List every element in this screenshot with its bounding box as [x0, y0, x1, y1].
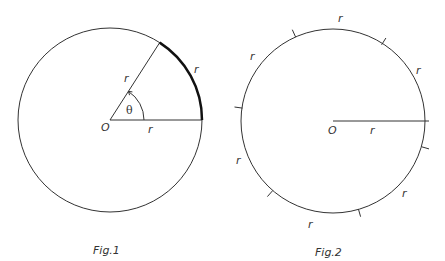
center-label: O	[101, 121, 110, 134]
arc-highlight	[160, 43, 202, 120]
arc-label: r	[194, 63, 200, 76]
radius-label: r	[370, 124, 376, 137]
arc-label-3: r	[250, 50, 256, 63]
arc-label-5: r	[308, 218, 314, 231]
figure-1: θ O r r r Fig.1	[18, 28, 202, 257]
angle-label: θ	[126, 104, 133, 117]
figure-2: r r r r r r O r Fig.2	[235, 12, 430, 259]
arc-label-1: r	[338, 12, 344, 25]
caption-fig1: Fig.1	[93, 244, 120, 257]
diagram-canvas: θ O r r r Fig.1 r r r r r r O r Fig.2	[0, 0, 445, 261]
radius-angled	[110, 43, 160, 120]
center-label: O	[328, 124, 337, 137]
arc-label-4: r	[236, 154, 242, 167]
side-label: r	[124, 72, 130, 85]
arc-label-6: r	[402, 187, 408, 200]
arc-label-2: r	[416, 64, 422, 77]
radius-label: r	[148, 123, 154, 136]
caption-fig2: Fig.2	[315, 246, 342, 259]
